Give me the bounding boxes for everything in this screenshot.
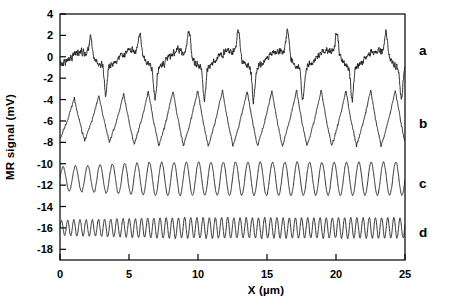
y-tick-label: -4 xyxy=(43,94,54,106)
x-tick-label: 15 xyxy=(261,268,273,280)
x-tick-label: 0 xyxy=(57,268,63,280)
y-tick-label: -12 xyxy=(37,179,53,191)
curve-label-a: a xyxy=(419,43,427,58)
x-axis-tick-labels: 0510152025 xyxy=(57,268,411,280)
x-tick-label: 5 xyxy=(126,268,132,280)
y-tick-label: -16 xyxy=(37,222,53,234)
curve-labels-group: abcd xyxy=(419,43,427,240)
x-tick-label: 20 xyxy=(330,268,342,280)
y-tick-label: -18 xyxy=(37,243,53,255)
y-tick-label: -14 xyxy=(37,201,54,213)
y-axis-title: MR signal (mV) xyxy=(4,94,16,180)
x-axis-title: X (µm) xyxy=(248,284,285,296)
curve-label-d: d xyxy=(419,225,427,240)
y-tick-label: -2 xyxy=(43,72,53,84)
curve-label-b: b xyxy=(419,116,427,131)
y-tick-label: 4 xyxy=(47,8,54,20)
x-tick-label: 25 xyxy=(399,268,411,280)
y-tick-label: -10 xyxy=(37,158,53,170)
y-tick-label: -6 xyxy=(43,115,53,127)
y-tick-label: -8 xyxy=(43,136,53,148)
mr-signal-line-chart: 0510152025 420-2-4-6-8-10-12-14-16-18 ab… xyxy=(0,0,451,305)
y-axis-tick-labels: 420-2-4-6-8-10-12-14-16-18 xyxy=(37,8,54,255)
x-tick-label: 10 xyxy=(192,268,204,280)
curve-label-c: c xyxy=(419,176,427,191)
y-tick-label: 2 xyxy=(47,29,53,41)
y-tick-label: 0 xyxy=(47,51,53,63)
chart-figure: 0510152025 420-2-4-6-8-10-12-14-16-18 ab… xyxy=(0,0,451,305)
